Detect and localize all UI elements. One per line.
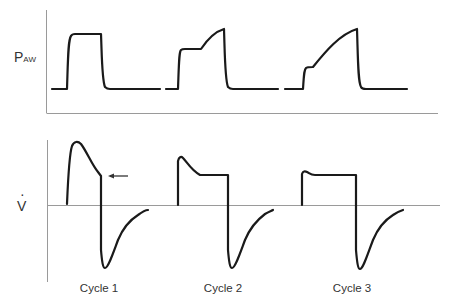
flow-label-dot: · <box>20 186 25 202</box>
cycle-label-3: Cycle 3 <box>333 282 371 294</box>
end-inspiratory-flow-arrow <box>108 174 128 179</box>
flow-cycle-2 <box>178 157 273 268</box>
pressure-label-subscript: AW <box>23 55 36 64</box>
arrowhead-icon <box>108 174 114 179</box>
flow-cycle-1 <box>67 142 148 268</box>
pressure-label-main: P <box>14 49 23 65</box>
pressure-cycle-3 <box>290 29 407 89</box>
pressure-cycle-2 <box>150 29 290 89</box>
pressure-axes <box>47 10 439 114</box>
flow-axes <box>48 140 441 282</box>
pressure-waveforms <box>52 29 407 89</box>
flow-cycle-3 <box>302 171 403 269</box>
cycle-label-1: Cycle 1 <box>80 282 118 294</box>
ventilator-waveform-figure: PAW V · Cycle 1 Cycle 2 Cycle 3 <box>0 0 449 304</box>
waveform-canvas <box>0 0 449 304</box>
pressure-cycle-1 <box>52 34 150 89</box>
cycle-label-2: Cycle 2 <box>204 282 242 294</box>
pressure-axis-label: PAW <box>14 48 36 66</box>
